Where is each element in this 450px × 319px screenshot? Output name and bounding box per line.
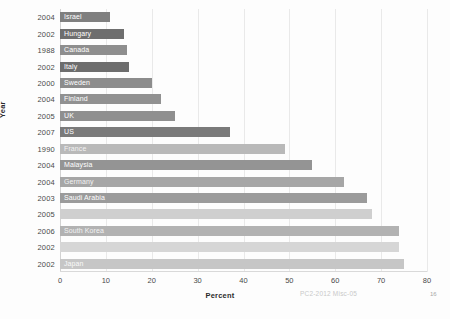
gridline-80: [427, 9, 428, 272]
bar[interactable]: France: [60, 144, 285, 154]
bar[interactable]: Canada: [60, 45, 127, 55]
bar-label: Malaysia: [64, 159, 92, 170]
bar-label: Japan: [64, 258, 84, 269]
bar-label: Canada: [64, 44, 89, 55]
bar[interactable]: Sweden: [60, 78, 152, 88]
bar-row: Finland: [60, 94, 427, 104]
y-axis-tick-label: 2004: [15, 178, 55, 187]
y-axis-tick-label: 2004: [15, 161, 55, 170]
y-axis-tick-label: 2005: [15, 112, 55, 121]
bar-rows: IsraelHungaryCanadaItalySwedenFinlandUKU…: [60, 9, 427, 272]
x-axis-tick-label: 10: [91, 276, 121, 285]
bar-label: Israel: [64, 11, 82, 22]
bar-row: Sweden: [60, 78, 427, 88]
page-number: 16: [430, 291, 437, 297]
y-axis-tick-label: 2006: [15, 227, 55, 236]
bar-label: South Korea: [64, 225, 104, 236]
bar[interactable]: US: [60, 127, 230, 137]
bar[interactable]: [60, 209, 372, 219]
bar-label: US: [64, 126, 74, 137]
bar[interactable]: UK: [60, 111, 175, 121]
bar-row: Italy: [60, 62, 427, 72]
bar[interactable]: South Korea: [60, 226, 399, 236]
x-axis-tick-label: 50: [274, 276, 304, 285]
x-axis-tick-label: 80: [412, 276, 442, 285]
bar-label: Germany: [64, 176, 94, 187]
y-axis-tick-label: 2002: [15, 63, 55, 72]
x-axis-title: Percent: [160, 291, 280, 300]
bar[interactable]: Hungary: [60, 29, 124, 39]
bar-row: [60, 209, 427, 219]
bar-row: Israel: [60, 12, 427, 22]
y-axis-tick-label: 2002: [15, 260, 55, 269]
bar[interactable]: Saudi Arabia: [60, 193, 367, 203]
watermark: PC2-2012 Misc-05: [300, 290, 357, 297]
y-axis-tick-label: 2004: [15, 13, 55, 22]
bar-label: Italy: [64, 61, 77, 72]
bar[interactable]: [60, 242, 399, 252]
bar-label: UK: [64, 110, 74, 121]
bar-row: Germany: [60, 177, 427, 187]
x-axis-tick-label: 30: [183, 276, 213, 285]
bar-row: [60, 242, 427, 252]
x-axis-tick-label: 20: [137, 276, 167, 285]
x-axis-tick-label: 60: [320, 276, 350, 285]
bar-row: Japan: [60, 259, 427, 269]
bar-row: France: [60, 144, 427, 154]
y-axis-tick-label: 2002: [15, 243, 55, 252]
bar[interactable]: Finland: [60, 94, 161, 104]
bar-row: Canada: [60, 45, 427, 55]
bar-chart: Year IsraelHungaryCanadaItalySwedenFinla…: [0, 0, 450, 319]
bar-label: Finland: [64, 93, 88, 104]
y-axis-tick-label: 2007: [15, 128, 55, 137]
bar[interactable]: Japan: [60, 259, 404, 269]
bar-label: France: [64, 143, 86, 154]
bar-row: Hungary: [60, 29, 427, 39]
bar-row: South Korea: [60, 226, 427, 236]
bar-label: Sweden: [64, 77, 90, 88]
y-axis-tick-label: 2000: [15, 79, 55, 88]
bar[interactable]: Malaysia: [60, 160, 312, 170]
y-axis-tick-label: 1990: [15, 145, 55, 154]
y-axis-tick-label: 1988: [15, 46, 55, 55]
plot-area: IsraelHungaryCanadaItalySwedenFinlandUKU…: [60, 9, 427, 272]
bar-row: Malaysia: [60, 160, 427, 170]
bar-label: Saudi Arabia: [64, 192, 105, 203]
x-axis-tick-label: 70: [366, 276, 396, 285]
x-axis-tick-label: 40: [229, 276, 259, 285]
bar-row: US: [60, 127, 427, 137]
y-axis-tick-label: 2005: [15, 210, 55, 219]
bar-row: UK: [60, 111, 427, 121]
y-axis-title: Year: [0, 101, 7, 118]
x-axis-tick-label: 0: [45, 276, 75, 285]
bar[interactable]: Italy: [60, 62, 129, 72]
bar[interactable]: Israel: [60, 12, 110, 22]
y-axis-tick-label: 2004: [15, 95, 55, 104]
bar[interactable]: Germany: [60, 177, 344, 187]
y-axis-tick-label: 2003: [15, 194, 55, 203]
bar-label: Hungary: [64, 28, 91, 39]
bar-row: Saudi Arabia: [60, 193, 427, 203]
y-axis-tick-label: 2002: [15, 30, 55, 39]
